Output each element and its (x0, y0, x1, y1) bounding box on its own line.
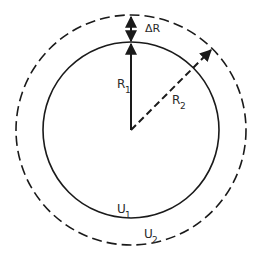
svg-text:2: 2 (180, 101, 186, 111)
u2-label: U 2 (144, 227, 158, 245)
svg-text:1: 1 (125, 85, 131, 95)
svg-text:1: 1 (125, 210, 131, 220)
concentric-circles-diagram: ΔR R 1 R 2 U 1 U 2 (0, 0, 260, 264)
svg-text:2: 2 (152, 235, 158, 245)
r2-label: R 2 (172, 93, 186, 111)
delta-r-label: ΔR (145, 22, 161, 35)
r1-label: R 1 (117, 77, 131, 95)
radius-r2-arrow (131, 50, 211, 130)
